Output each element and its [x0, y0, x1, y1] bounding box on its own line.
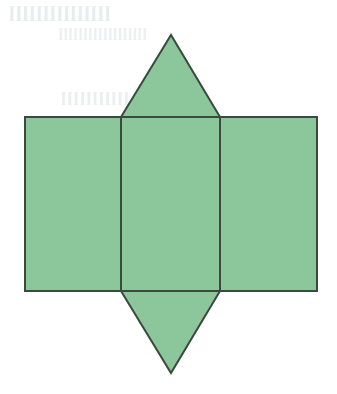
- left-square: [25, 117, 121, 291]
- net-diagram: [0, 0, 337, 394]
- center-square: [121, 117, 220, 291]
- top-triangle: [121, 35, 220, 117]
- net-shape-group: [25, 35, 317, 373]
- scanned-page: lllllllllllllll llllllllllllllllll lllll…: [0, 0, 337, 394]
- right-square: [220, 117, 317, 291]
- bottom-triangle: [121, 291, 220, 373]
